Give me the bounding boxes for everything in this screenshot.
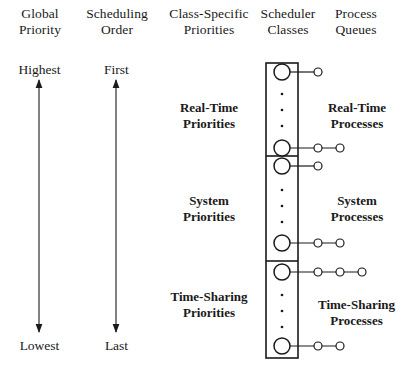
system-queue-top-node-0: [314, 162, 322, 170]
time-sharing-queue-bottom: [274, 338, 344, 354]
scheduler-class-box: [266, 63, 298, 358]
diagram-graphics: [0, 0, 407, 379]
global-priority-axis-arrowhead-down: [36, 324, 43, 333]
time-sharing-queue-top-node-0: [314, 268, 322, 276]
scheduling-order-axis-arrowhead-down: [113, 324, 120, 333]
real-time-queue-bottom: [274, 140, 344, 156]
scheduling-order-axis: [113, 79, 120, 333]
time-sharing-queue-top-node-1: [336, 268, 344, 276]
real-time-queue-bottom-class-circle: [274, 140, 290, 156]
time-sharing-queue-top-node-2: [358, 268, 366, 276]
real-time-ellipsis-dot-2: [281, 125, 284, 128]
time-sharing-queue-bottom-node-0: [314, 342, 322, 350]
time-sharing-ellipsis-dot-0: [281, 294, 284, 297]
system-ellipsis-dot-0: [281, 189, 284, 192]
real-time-ellipsis-dot-1: [281, 109, 284, 112]
system-ellipsis-dot-2: [281, 221, 284, 224]
system-ellipsis: [281, 189, 284, 224]
time-sharing-queue-top-class-circle: [274, 264, 290, 280]
real-time-ellipsis-dot-0: [281, 93, 284, 96]
time-sharing-ellipsis-dot-2: [281, 326, 284, 329]
real-time-ellipsis: [281, 93, 284, 128]
time-sharing-ellipsis-dot-1: [281, 310, 284, 313]
global-priority-axis: [36, 79, 43, 333]
system-ellipsis-dot-1: [281, 205, 284, 208]
system-queue-bottom-node-0: [314, 239, 322, 247]
time-sharing-queue-bottom-class-circle: [274, 338, 290, 354]
time-sharing-queue-top: [274, 264, 366, 280]
real-time-queue-top-node-0: [314, 68, 322, 76]
scheduling-order-axis-arrowhead-up: [113, 79, 120, 88]
system-queue-bottom: [274, 235, 344, 251]
time-sharing-queue-bottom-node-1: [336, 342, 344, 350]
system-queue-bottom-node-1: [336, 239, 344, 247]
scheduler-class-box-outline: [266, 63, 298, 358]
system-queue-bottom-class-circle: [274, 235, 290, 251]
global-priority-axis-arrowhead-up: [36, 79, 43, 88]
real-time-queue-bottom-node-1: [336, 144, 344, 152]
real-time-queue-top-class-circle: [274, 64, 290, 80]
scheduler-diagram: Global Priority Scheduling Order Class-S…: [0, 0, 407, 379]
real-time-queue-bottom-node-0: [314, 144, 322, 152]
system-queue-top-class-circle: [274, 158, 290, 174]
time-sharing-ellipsis: [281, 294, 284, 329]
